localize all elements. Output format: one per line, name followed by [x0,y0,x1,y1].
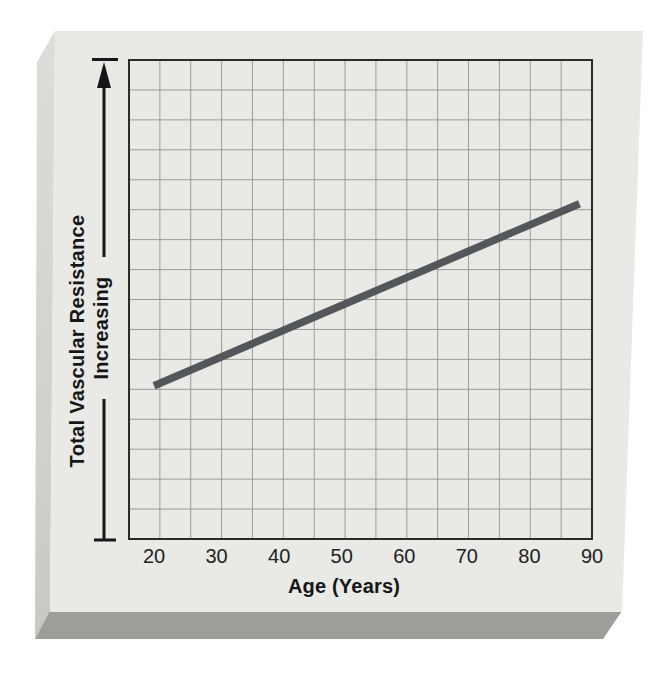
y-axis-label-line2: Increasing [90,276,113,379]
x-axis-label: Age (Years) [288,575,400,598]
y-axis-label-line1: Total Vascular Resistance [66,215,89,468]
